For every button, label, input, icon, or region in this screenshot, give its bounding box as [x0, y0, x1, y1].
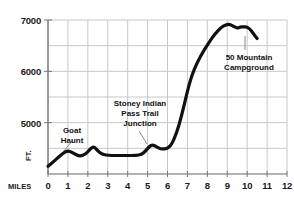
x-axis-tick-label: 2 — [85, 180, 90, 191]
x-axis-tick-label: 4 — [125, 180, 130, 191]
annotation-stoney-indian-pass-trail-junction: Stoney IndianPass TrailJunction — [114, 99, 166, 129]
annotation-50-mountain-campground: 50 MountainCampground — [224, 53, 274, 73]
y-axis-tick-label: 7000 — [21, 15, 41, 26]
x-axis-unit-label: MILES — [8, 182, 31, 191]
annotation-leader-lines — [63, 36, 245, 152]
x-axis-tick-label: 0 — [45, 180, 50, 191]
annotation-line: Campground — [224, 63, 274, 73]
annotation-line: Pass Trail — [114, 109, 166, 119]
x-axis-tick-label: 6 — [165, 180, 170, 191]
x-axis-tick-label: 1 — [65, 180, 70, 191]
elevation-profile-chart: 500060007000 0123456789101112 MILES FT. … — [0, 0, 294, 206]
annotation-line: Goat — [61, 126, 84, 136]
annotation-line: Stoney Indian — [114, 99, 166, 109]
y-axis-tick-label: 5000 — [21, 117, 41, 128]
x-axis-tick-label: 10 — [242, 180, 252, 191]
annotation-line: Haunt — [61, 136, 84, 146]
annotation-line: Junction — [114, 119, 166, 129]
x-axis-tick-label: 3 — [105, 180, 110, 191]
annotation-line: 50 Mountain — [224, 53, 274, 63]
y-axis-tick-label: 6000 — [21, 66, 41, 77]
x-axis-tick-label: 8 — [205, 180, 210, 191]
annotation-goat-haunt: GoatHaunt — [61, 126, 84, 146]
x-axis-tick-label: 7 — [185, 180, 190, 191]
x-axis-tick-label: 9 — [225, 180, 230, 191]
y-axis-unit-label: FT. — [24, 150, 33, 161]
x-axis-tick-label: 12 — [282, 180, 292, 191]
gridlines — [48, 20, 287, 174]
x-axis-tick-label: 5 — [145, 180, 150, 191]
x-axis-tick-label: 11 — [262, 180, 272, 191]
annotation-leader-line-stoney-indian-pass-trail-junction — [139, 131, 147, 144]
